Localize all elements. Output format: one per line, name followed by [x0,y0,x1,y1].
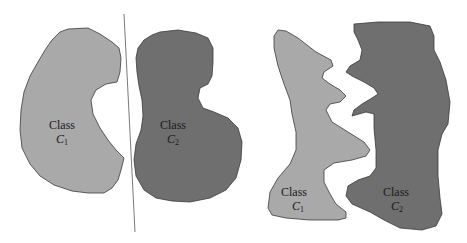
class2-region-left [134,30,242,202]
class2-label-right: Class [383,185,409,199]
class1-label-right: Class [281,185,307,199]
class1-region-left [20,28,124,193]
classification-diagram: Class C1 Class C2 Class C1 Class C2 [0,0,467,243]
decision-boundary-line [124,14,135,232]
class1-label-left: Class [49,118,75,132]
panel-linearly-separable: Class C1 Class C2 [20,14,242,232]
panel-nonlinearly-separable: Class C1 Class C2 [268,22,450,230]
class2-label-left: Class [160,118,186,132]
